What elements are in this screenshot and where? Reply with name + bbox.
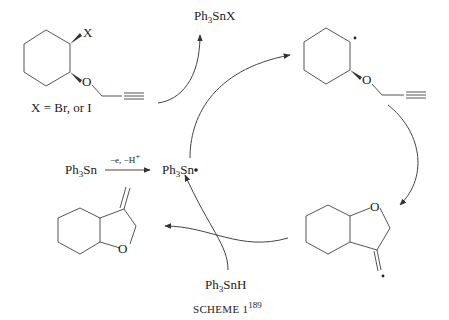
cyclohexyl-radical-structure: O [304,28,426,98]
svg-text:Ph3Sn: Ph3Sn [162,162,194,179]
reaction-scheme: X O X = Br, or I Ph3SnX O Ph3Sn −e, −H+ … [0,0,449,320]
h-transfer-arrow [165,226,288,242]
radical-dot [382,275,385,278]
vinyl-radical-structure: O [306,199,390,277]
oxidation-conditions: −e, −H+ [110,151,140,165]
oxygen-label: O [118,241,127,256]
ph3sn-reagent-label: Ph3Sn [65,162,97,179]
sn-regeneration-arrow [185,175,228,270]
cycle-arrow-abstraction [190,55,290,158]
oxygen-label: O [362,72,371,87]
ph3snx-label: Ph3SnX [194,8,236,25]
x-substituent-label: X [83,25,93,40]
svg-text:Ph3SnX: Ph3SnX [194,8,236,25]
scheme-caption: SCHEME 1189 [193,300,262,315]
ph3snh-label: Ph3SnH [205,277,246,294]
svg-text:Ph3SnH: Ph3SnH [205,277,246,294]
starting-material-structure: X O X = Br, or I [24,25,144,115]
ph3snx-release-arrow [158,35,200,103]
oxygen-label: O [82,74,91,89]
cyclization-arrow [388,105,418,205]
product-structure: O [58,187,136,256]
svg-text:Ph3Sn: Ph3Sn [65,162,97,179]
ph3sn-radical-label: Ph3Sn [162,162,198,179]
radical-dot [354,37,357,40]
radical-dot [194,168,198,172]
oxygen-label: O [370,199,379,214]
x-definition-label: X = Br, or I [31,100,92,115]
